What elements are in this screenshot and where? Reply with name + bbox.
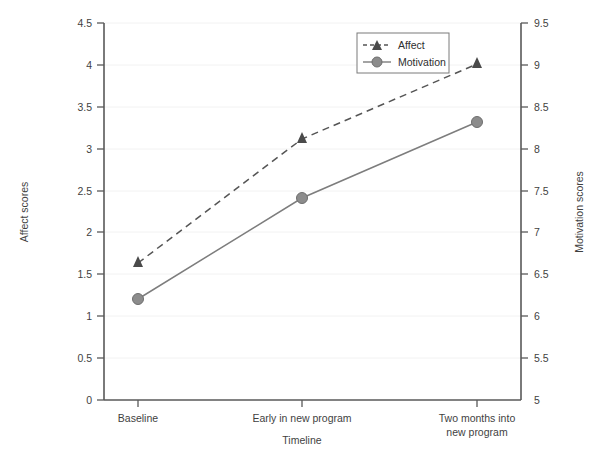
x-axis-ticks [138, 400, 477, 407]
y2-tick-label: 7 [534, 226, 540, 238]
y-axis-left-title: Affect scores [18, 182, 30, 243]
y2-tick-label: 5.5 [534, 352, 549, 364]
y-axis-left-tick-labels: 4.5 4 3.5 3 2.5 2 1.5 1 0.5 0 [77, 17, 92, 406]
chart-container: 4.5 4 3.5 3 2.5 2 1.5 1 0.5 0 9.5 9 8.5 [0, 0, 607, 450]
legend-label-affect: Affect [398, 39, 425, 51]
y-tick-label: 3.5 [77, 101, 92, 113]
line-chart: 4.5 4 3.5 3 2.5 2 1.5 1 0.5 0 9.5 9 8.5 [0, 0, 607, 450]
y-tick-label: 2 [86, 226, 92, 238]
data-point-affect [472, 57, 482, 68]
y-axis-right-title: Motivation scores [573, 171, 585, 253]
y-tick-label: 1.5 [77, 268, 92, 280]
legend-label-motivation: Motivation [398, 56, 446, 68]
y-tick-label: 1 [86, 310, 92, 322]
y-tick-label: 3 [86, 143, 92, 155]
y-axis-right-tick-labels: 9.5 9 8.5 8 7.5 7 6.5 6 5.5 5 [534, 17, 549, 406]
series-markers-motivation [133, 117, 483, 305]
y2-tick-label: 9 [534, 59, 540, 71]
data-point-motivation [133, 294, 144, 305]
y-axis-left-ticks [97, 23, 104, 400]
y2-tick-label: 5 [534, 394, 540, 406]
y-tick-label: 4 [86, 59, 92, 71]
y2-tick-label: 8 [534, 143, 540, 155]
y2-tick-label: 6.5 [534, 268, 549, 280]
x-axis-title: Timeline [282, 434, 321, 446]
data-point-affect [133, 256, 143, 267]
y2-tick-label: 6 [534, 310, 540, 322]
gridlines [104, 23, 521, 358]
y-tick-label: 2.5 [77, 185, 92, 197]
x-tick-label: Baseline [118, 412, 158, 424]
y2-tick-label: 7.5 [534, 185, 549, 197]
y2-tick-label: 9.5 [534, 17, 549, 29]
x-tick-label-line1: Two months into [439, 412, 516, 424]
y-axis-right-ticks [521, 23, 528, 358]
legend-entry-motivation[interactable]: Motivation [363, 56, 446, 68]
x-tick-label-line2: new program [446, 426, 508, 438]
y2-tick-label: 8.5 [534, 101, 549, 113]
y-tick-label: 0.5 [77, 352, 92, 364]
x-tick-label: Early in new program [252, 412, 351, 424]
data-point-motivation [472, 117, 483, 128]
series-markers-affect [133, 57, 482, 267]
circle-marker-icon [372, 57, 382, 67]
data-point-motivation [297, 193, 308, 204]
chart-legend: Affect Motivation [357, 33, 449, 73]
y-tick-label: 4.5 [77, 17, 92, 29]
series-line-affect [138, 64, 477, 263]
y-tick-label: 0 [86, 394, 92, 406]
